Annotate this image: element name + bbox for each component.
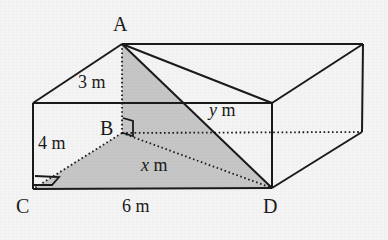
measure-label-AD: y m	[209, 101, 236, 119]
prism-diagram-svg	[0, 0, 388, 240]
variable-y: y	[209, 100, 217, 120]
measure-label-AB: 3 m	[78, 73, 106, 91]
vertex-label-B: B	[100, 118, 113, 138]
unit-y: m	[222, 100, 236, 120]
measure-label-CD: 6 m	[122, 197, 150, 215]
vertex-label-C: C	[16, 196, 29, 216]
measure-label-BC: 4 m	[38, 134, 66, 152]
edge-back-slope-lower	[272, 132, 362, 188]
measure-label-BD: x m	[141, 156, 168, 174]
unit-x: m	[154, 155, 168, 175]
geometry-figure: A B C D 3 m 4 m 6 m x m y m	[0, 0, 388, 240]
edge-roof-right-face	[272, 44, 363, 103]
vertex-label-D: D	[263, 196, 277, 216]
edge-back-gable-right	[362, 44, 363, 132]
edge-front-bottom	[33, 188, 272, 189]
variable-x: x	[141, 155, 149, 175]
vertex-label-A: A	[113, 14, 127, 34]
